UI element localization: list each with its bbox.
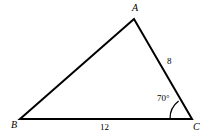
triangle-outline <box>20 19 192 119</box>
angle-arc-c <box>170 101 179 119</box>
vertex-label-b: B <box>11 120 17 130</box>
vertex-label-c: C <box>193 122 200 132</box>
triangle-diagram: A B C 8 12 70° <box>0 0 210 138</box>
angle-label-c: 70° <box>157 94 170 103</box>
side-label-ac: 8 <box>167 57 172 66</box>
side-label-bc: 12 <box>100 123 109 132</box>
vertex-label-a: A <box>132 3 138 13</box>
triangle-svg <box>0 0 210 138</box>
